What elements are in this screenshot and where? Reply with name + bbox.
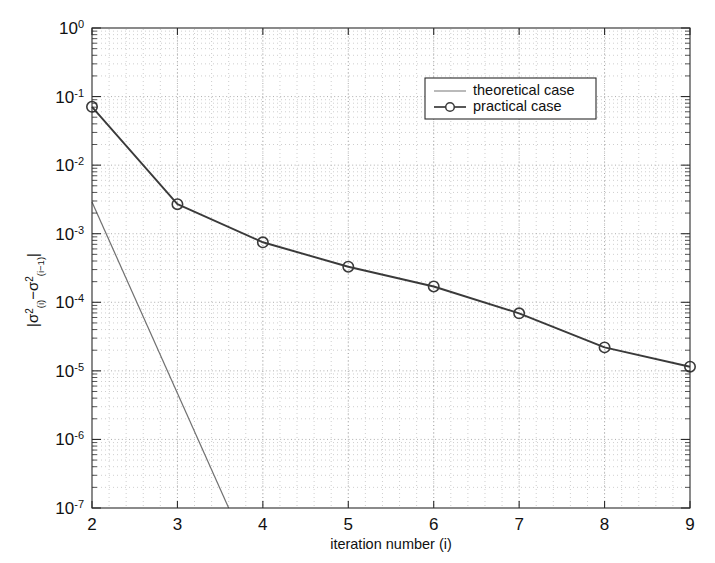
x-axis-tick-label: 7 (514, 515, 523, 534)
x-axis-tick-label: 4 (258, 515, 267, 534)
y-tick-mantissa: 10 (59, 19, 78, 38)
y-tick-mantissa: 10 (55, 88, 74, 107)
y-label-sup-2: 2 (24, 276, 35, 282)
legend-label-practical: practical case (473, 98, 562, 114)
x-axis-tick-label: 2 (87, 515, 96, 534)
x-axis-tick-label: 9 (685, 515, 694, 534)
log-line-chart: 10010-110-210-310-410-510-610-7 23456789… (0, 0, 715, 563)
y-tick-mantissa: 10 (55, 156, 74, 175)
x-axis-tick-label: 8 (600, 515, 609, 534)
y-tick-exponent: -2 (74, 155, 84, 167)
y-label-minus: − (24, 291, 41, 300)
y-label-bar-close: | (24, 253, 41, 257)
y-label-sub-i: (i) (35, 300, 46, 308)
y-tick-mantissa: 10 (55, 225, 74, 244)
y-tick-mantissa: 10 (55, 293, 74, 312)
y-tick-exponent: -4 (74, 292, 84, 304)
legend-label-theoretical: theoretical case (473, 82, 575, 98)
y-label-sup-1: 2 (24, 308, 35, 314)
y-tick-exponent: -7 (74, 498, 84, 510)
y-tick-exponent: -5 (74, 361, 84, 373)
y-tick-exponent: -6 (74, 429, 84, 441)
y-tick-mantissa: 10 (55, 362, 74, 381)
figure-canvas: 10010-110-210-310-410-510-610-7 23456789… (0, 0, 715, 563)
x-axis-tick-label: 6 (429, 515, 438, 534)
y-tick-mantissa: 10 (55, 430, 74, 449)
y-tick-exponent: 0 (78, 18, 84, 30)
y-tick-exponent: -3 (74, 224, 84, 236)
x-axis-label: iteration number (i) (330, 536, 452, 552)
legend-swatch-practical-marker (446, 103, 455, 112)
chart-legend[interactable]: theoretical case practical case (425, 78, 596, 119)
x-axis-tick-label: 3 (173, 515, 182, 534)
x-axis-tick-label: 5 (344, 515, 353, 534)
y-label-sub-i1: (i−1) (35, 257, 46, 276)
y-tick-exponent: -1 (74, 87, 84, 99)
y-tick-mantissa: 10 (55, 499, 74, 518)
